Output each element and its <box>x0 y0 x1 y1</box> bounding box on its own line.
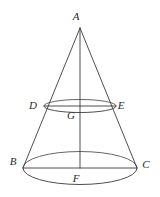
vertex-label-f: F <box>73 173 80 184</box>
figure-canvas <box>0 0 160 197</box>
cone-geometry-figure: A D E G B C F <box>0 0 160 197</box>
base-circle-front-arc <box>23 168 137 185</box>
vertex-label-c: C <box>142 159 149 170</box>
vertex-label-e: E <box>118 100 125 111</box>
slant-line-ac <box>80 28 137 168</box>
vertex-label-b: B <box>10 156 17 167</box>
vertex-label-g: G <box>67 110 75 121</box>
vertex-label-d: D <box>29 100 37 111</box>
vertex-label-a: A <box>73 11 80 22</box>
